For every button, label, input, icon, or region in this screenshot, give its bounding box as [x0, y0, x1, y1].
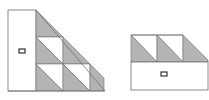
- left-diagram: [8, 10, 105, 91]
- hst-gray: [63, 37, 90, 64]
- diagram-canvas: [0, 0, 209, 100]
- hst-gray: [183, 35, 208, 62]
- right-diagram: [131, 35, 208, 90]
- hst-gray: [36, 10, 63, 37]
- right-rectangle: [131, 62, 208, 90]
- left-rectangle: [8, 10, 36, 91]
